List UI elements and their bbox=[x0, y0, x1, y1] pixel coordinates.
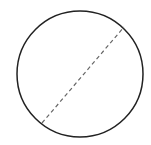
diagram-canvas bbox=[0, 0, 151, 145]
circle-outline bbox=[17, 11, 143, 137]
circle-diagram bbox=[0, 0, 151, 145]
dashed-diameter-line bbox=[42, 27, 124, 123]
